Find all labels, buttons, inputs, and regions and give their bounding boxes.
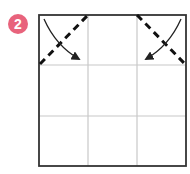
fold-line-top-right (137, 15, 185, 64)
fold-diagram (0, 0, 190, 174)
paper-square (39, 15, 186, 166)
fold-line-top-left (40, 15, 88, 64)
grid-lines (39, 15, 186, 166)
